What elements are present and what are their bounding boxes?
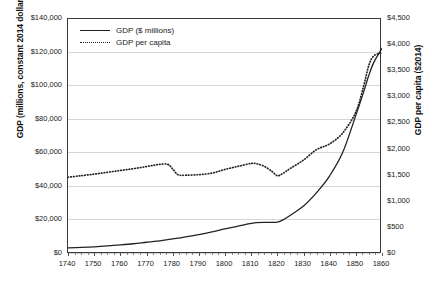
legend-item-gdp-per-capita: GDP per capita bbox=[80, 36, 174, 48]
y-axis-left-tick-label: $60,000 bbox=[10, 147, 62, 156]
x-tickmark-minor bbox=[238, 253, 239, 255]
chart-legend: GDP ($ millions) GDP per capita bbox=[80, 24, 174, 48]
y-axis-left-tick-label: $20,000 bbox=[10, 214, 62, 223]
x-tickmark-major bbox=[68, 253, 69, 256]
y-axis-left-tick-label: $80,000 bbox=[10, 114, 62, 123]
x-tickmark-minor bbox=[101, 253, 102, 255]
y-axis-right-tick-label: $0 bbox=[387, 248, 439, 257]
y-axis-right-tick-label: $4,500 bbox=[387, 13, 439, 22]
gridline bbox=[68, 253, 380, 254]
x-tickmark-minor bbox=[297, 253, 298, 255]
y-axis-right-tick-label: $4,000 bbox=[387, 39, 439, 48]
series-line-gdp-per-capita bbox=[68, 53, 382, 177]
x-tickmark-major bbox=[304, 253, 305, 256]
y-axis-left-tick-label: $0 bbox=[10, 248, 62, 257]
x-tickmark-minor bbox=[133, 253, 134, 255]
x-tickmark-minor bbox=[114, 253, 115, 255]
y-axis-left-tick-label: $120,000 bbox=[10, 47, 62, 56]
series-layer bbox=[68, 18, 382, 253]
plot-area bbox=[67, 18, 381, 253]
x-tickmark-minor bbox=[258, 253, 259, 255]
x-tickmark-major bbox=[120, 253, 121, 256]
x-tickmark-minor bbox=[317, 253, 318, 255]
y-axis-left-tick-label: $40,000 bbox=[10, 181, 62, 190]
x-tickmark-major bbox=[382, 253, 383, 256]
x-tickmark-minor bbox=[375, 253, 376, 255]
x-tickmark-minor bbox=[81, 253, 82, 255]
x-tickmark-minor bbox=[336, 253, 337, 255]
legend-item-gdp: GDP ($ millions) bbox=[80, 24, 174, 36]
x-tickmark-minor bbox=[127, 253, 128, 255]
legend-line-dotted-icon bbox=[80, 38, 110, 46]
x-tickmark-minor bbox=[232, 253, 233, 255]
x-tickmark-minor bbox=[369, 253, 370, 255]
y-axis-left-tick-label: $100,000 bbox=[10, 80, 62, 89]
x-tickmark-major bbox=[356, 253, 357, 256]
x-tickmark-minor bbox=[192, 253, 193, 255]
y-axis-right-tick-label: $1,500 bbox=[387, 170, 439, 179]
y-axis-right-tick-label: $3,000 bbox=[387, 91, 439, 100]
x-tickmark-minor bbox=[264, 253, 265, 255]
legend-line-solid-icon bbox=[80, 26, 110, 34]
x-tickmark-minor bbox=[284, 253, 285, 255]
y-axis-right-tick-label: $500 bbox=[387, 222, 439, 231]
x-tickmark-major bbox=[199, 253, 200, 256]
series-line-gdp bbox=[68, 48, 382, 248]
x-tickmark-major bbox=[330, 253, 331, 256]
x-tickmark-minor bbox=[107, 253, 108, 255]
gdp-chart: GDP (millions, constant 2014 dollars) GD… bbox=[0, 0, 439, 282]
x-tickmark-minor bbox=[343, 253, 344, 255]
x-tickmark-minor bbox=[362, 253, 363, 255]
x-tickmark-minor bbox=[218, 253, 219, 255]
legend-label-gdp-per-capita: GDP per capita bbox=[116, 38, 171, 47]
x-tickmark-minor bbox=[205, 253, 206, 255]
x-tickmark-minor bbox=[160, 253, 161, 255]
y-axis-right-tick-label: $3,500 bbox=[387, 65, 439, 74]
x-tickmark-minor bbox=[75, 253, 76, 255]
x-tickmark-major bbox=[251, 253, 252, 256]
x-tickmark-minor bbox=[153, 253, 154, 255]
x-tickmark-major bbox=[94, 253, 95, 256]
x-tickmark-minor bbox=[140, 253, 141, 255]
x-tickmark-minor bbox=[166, 253, 167, 255]
x-tickmark-major bbox=[173, 253, 174, 256]
x-axis-tick-label: 1860 bbox=[361, 259, 401, 268]
x-tickmark-minor bbox=[186, 253, 187, 255]
x-tickmark-minor bbox=[290, 253, 291, 255]
x-tickmark-minor bbox=[245, 253, 246, 255]
x-tickmark-minor bbox=[323, 253, 324, 255]
x-tickmark-major bbox=[147, 253, 148, 256]
x-tickmark-minor bbox=[179, 253, 180, 255]
x-tickmark-minor bbox=[88, 253, 89, 255]
y-axis-right-tick-label: $2,500 bbox=[387, 117, 439, 126]
legend-label-gdp: GDP ($ millions) bbox=[116, 26, 174, 35]
x-tickmark-minor bbox=[212, 253, 213, 255]
y-axis-right-tick-label: $2,000 bbox=[387, 144, 439, 153]
y-axis-left-tick-label: $140,000 bbox=[10, 13, 62, 22]
x-tickmark-minor bbox=[310, 253, 311, 255]
x-tickmark-minor bbox=[271, 253, 272, 255]
y-axis-right-tick-label: $1,000 bbox=[387, 196, 439, 205]
x-tickmark-major bbox=[277, 253, 278, 256]
x-tickmark-minor bbox=[349, 253, 350, 255]
x-tickmark-major bbox=[225, 253, 226, 256]
